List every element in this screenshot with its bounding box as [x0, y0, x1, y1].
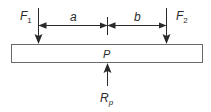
dimension-a: a: [40, 10, 107, 26]
force-f1-label: F1: [20, 9, 32, 25]
dimension-b-label: b: [134, 10, 141, 24]
dimension-b: b: [109, 10, 166, 26]
beam-force-diagram: P F1 F2 a b Rp: [0, 0, 211, 112]
dimension-a-label: a: [70, 10, 77, 24]
beam: P: [12, 45, 203, 63]
beam-label: P: [103, 48, 111, 60]
force-f2: F2: [167, 8, 189, 43]
force-f2-label-sub: 2: [183, 16, 188, 25]
reaction-rp: Rp: [100, 64, 114, 107]
force-f2-label: F2: [176, 9, 188, 25]
reaction-rp-label-sub: p: [108, 98, 114, 107]
reaction-rp-label: Rp: [100, 91, 114, 107]
reaction-rp-label-main: R: [100, 91, 109, 105]
force-f1: F1: [20, 8, 39, 43]
force-f1-label-sub: 1: [27, 16, 32, 25]
